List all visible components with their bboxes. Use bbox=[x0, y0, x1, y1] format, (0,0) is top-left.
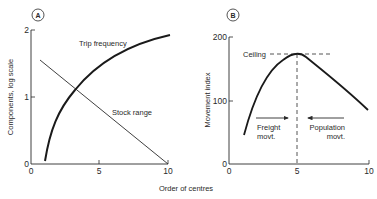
panel-a-ytick-1: 1 bbox=[24, 92, 29, 102]
trip-frequency-curve bbox=[45, 35, 170, 161]
panel-a-xtick-5: 5 bbox=[97, 166, 102, 176]
panel-a: A 2 1 0 0 5 10 Components, log scale Tri… bbox=[6, 9, 173, 176]
panel-a-xtick-0: 0 bbox=[29, 166, 34, 176]
ceiling-label: Ceiling bbox=[243, 50, 266, 59]
trip-frequency-label: Trip frequency bbox=[79, 39, 127, 48]
freight-label-line2: movt. bbox=[257, 132, 275, 141]
figure-canvas: A 2 1 0 0 5 10 Components, log scale Tri… bbox=[0, 0, 377, 199]
population-label-line1: Population bbox=[310, 123, 345, 132]
panel-a-ytick-2: 2 bbox=[24, 25, 29, 35]
panel-a-letter: A bbox=[35, 12, 40, 19]
panel-a-badge: A bbox=[32, 9, 44, 21]
panel-b-xtick-10: 10 bbox=[364, 166, 374, 176]
panel-b-badge: B bbox=[227, 9, 239, 21]
panel-b: B 200 100 0 0 5 10 Movement index Ceilin… bbox=[203, 9, 374, 176]
panel-b-ytick-100: 100 bbox=[213, 96, 227, 106]
panel-b-xtick-0: 0 bbox=[227, 166, 232, 176]
panel-b-xtick-5: 5 bbox=[295, 166, 300, 176]
panel-b-ylabel: Movement index bbox=[203, 72, 212, 127]
freight-label-line1: Freight bbox=[257, 123, 281, 132]
panel-a-xtick-10: 10 bbox=[163, 166, 173, 176]
panel-b-letter: B bbox=[230, 12, 235, 19]
panel-b-ytick-200: 200 bbox=[213, 32, 227, 42]
panel-a-ylabel: Components, log scale bbox=[6, 59, 15, 135]
population-label-line2: movt. bbox=[327, 132, 345, 141]
stock-range-label: Stock range bbox=[112, 108, 152, 117]
shared-xlabel: Order of centres bbox=[159, 184, 213, 193]
